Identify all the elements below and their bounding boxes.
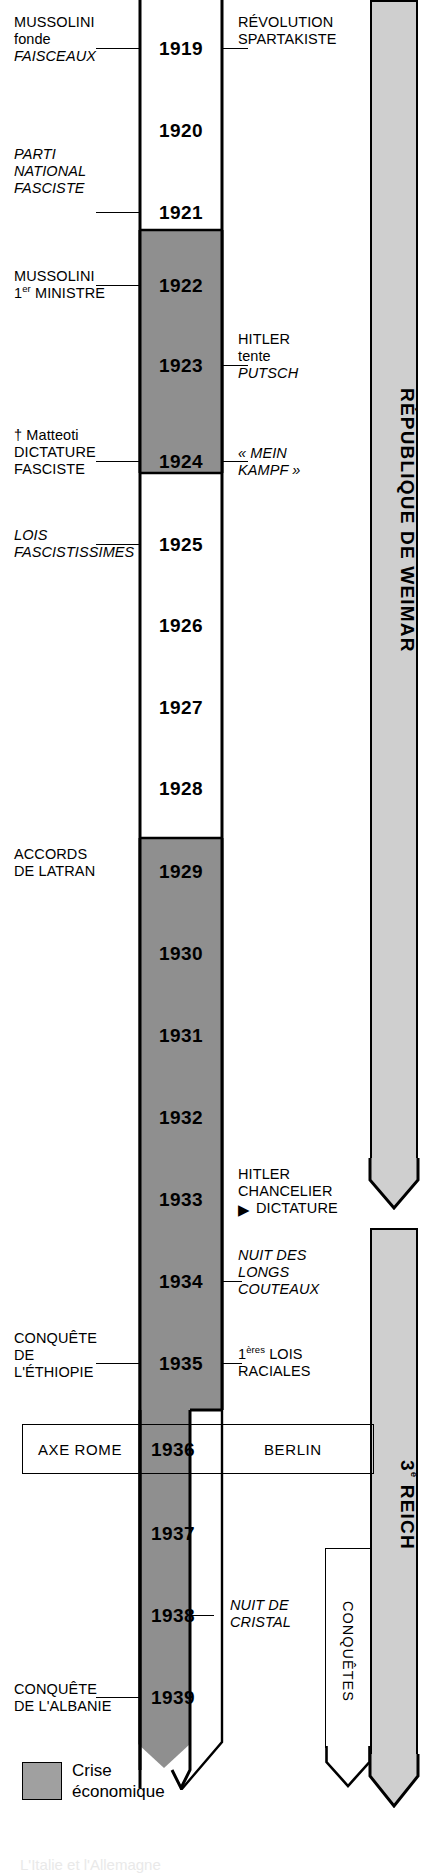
event-left-1921-line3: FASCISTE bbox=[14, 180, 132, 197]
year-1922: 1922 bbox=[138, 276, 224, 295]
event-left-1919-line3: FAISCEAUX bbox=[14, 48, 132, 65]
event-right-1923-line1: HITLER bbox=[238, 331, 368, 348]
reich-ordinal-num: 3 bbox=[397, 1460, 418, 1472]
event-right-1919-line1: RÉVOLUTION bbox=[238, 14, 368, 31]
tick-right-1938 bbox=[190, 1615, 214, 1616]
axe-rome-label: AXE ROME bbox=[38, 1441, 122, 1458]
timeline-outline bbox=[138, 0, 224, 1790]
year-1937: 1937 bbox=[130, 1524, 216, 1543]
event-left-1919: MUSSOLINI fonde FAISCEAUX bbox=[14, 14, 132, 65]
legend-line2: économique bbox=[72, 1781, 222, 1802]
ordinal-num-2: 1 bbox=[238, 1346, 246, 1362]
reich-word: REICH bbox=[397, 1478, 418, 1550]
event-right-1923: HITLER tente PUTSCH bbox=[238, 331, 368, 382]
ordinal-sup-2: ères bbox=[246, 1344, 265, 1355]
era-bar-weimar-arrow-tip bbox=[368, 1158, 420, 1210]
year-1931: 1931 bbox=[138, 1026, 224, 1045]
event-right-1919-line2: SPARTAKISTE bbox=[238, 31, 368, 48]
era-label-reich: 3e REICH bbox=[370, 1410, 418, 1600]
event-right-1919: RÉVOLUTION SPARTAKISTE bbox=[238, 14, 368, 48]
event-right-1935: 1ères LOIS RACIALES bbox=[238, 1346, 368, 1380]
event-right-1934-line1: NUIT DES bbox=[238, 1247, 368, 1264]
event-right-1933-line3-wrap: ▶ DICTATURE bbox=[238, 1200, 368, 1217]
event-left-1935-line3: L'ÉTHIOPIE bbox=[14, 1364, 132, 1381]
event-right-1935-line2: RACIALES bbox=[238, 1363, 368, 1380]
year-1939: 1939 bbox=[130, 1688, 216, 1707]
triangle-right-icon: ▶ bbox=[238, 1202, 250, 1217]
event-right-1934-line3: COUTEAUX bbox=[238, 1281, 368, 1298]
event-left-1919-line2: fonde bbox=[14, 31, 132, 48]
year-1929: 1929 bbox=[138, 862, 224, 881]
event-left-1925-line1: LOIS bbox=[14, 527, 132, 544]
year-1924: 1924 bbox=[138, 452, 224, 471]
event-right-1933: HITLER CHANCELIER ▶ DICTATURE bbox=[238, 1166, 368, 1217]
timeline-column bbox=[138, 0, 224, 1790]
year-1921: 1921 bbox=[138, 203, 224, 222]
year-1930: 1930 bbox=[138, 944, 224, 963]
figure-caption: L'Italie et l'Allemagne bbox=[20, 1856, 410, 1873]
conquetes-arrow-tip bbox=[325, 1746, 371, 1788]
year-1932: 1932 bbox=[138, 1108, 224, 1127]
year-1925: 1925 bbox=[138, 535, 224, 554]
year-1927: 1927 bbox=[138, 698, 224, 717]
event-left-1939-line1: CONQUÊTE bbox=[14, 1681, 142, 1698]
event-right-1938-line1: NUIT DE bbox=[230, 1597, 320, 1614]
era-label-weimar: RÉPUBLIQUE DE WEIMAR bbox=[370, 160, 418, 880]
event-left-1921-line1: PARTI bbox=[14, 146, 132, 163]
event-left-1935-line1: CONQUÊTE bbox=[14, 1330, 132, 1347]
year-1926: 1926 bbox=[138, 616, 224, 635]
event-right-1923-line2: tente bbox=[238, 348, 368, 365]
ministre-word: MINISTRE bbox=[31, 285, 105, 301]
era-bar-reich-arrow-tip bbox=[368, 1754, 420, 1808]
event-left-1935-line2: DE bbox=[14, 1347, 132, 1364]
event-left-1939: CONQUÊTE DE L'ALBANIE bbox=[14, 1681, 142, 1715]
event-left-1921-line2: NATIONAL bbox=[14, 163, 132, 180]
year-1933: 1933 bbox=[138, 1190, 224, 1209]
legend-text-crisis: Crise économique bbox=[72, 1760, 222, 1802]
event-left-1925: LOIS FASCISTISSIMES bbox=[14, 527, 132, 561]
conquetes-label: CONQUÊTES bbox=[325, 1556, 371, 1746]
event-left-1924: † Matteoti DICTATURE FASCISTE bbox=[14, 427, 132, 478]
year-1923: 1923 bbox=[138, 356, 224, 375]
legend-line1: Crise bbox=[72, 1760, 222, 1781]
event-left-1921: PARTI NATIONAL FASCISTE bbox=[14, 146, 132, 197]
event-left-1925-line2: FASCISTISSIMES bbox=[14, 544, 132, 561]
event-left-1929-line1: ACCORDS bbox=[14, 846, 132, 863]
year-1920: 1920 bbox=[138, 121, 224, 140]
ordinal-num: 1 bbox=[14, 285, 22, 301]
tick-left-1921 bbox=[96, 212, 140, 213]
event-left-1924-line3: FASCISTE bbox=[14, 461, 132, 478]
event-right-1933-line3: DICTATURE bbox=[256, 1200, 338, 1216]
year-1928: 1928 bbox=[138, 779, 224, 798]
event-left-1924-line2: DICTATURE bbox=[14, 444, 132, 461]
event-right-1924: « MEIN KAMPF » bbox=[238, 445, 368, 479]
event-right-1924-line2: KAMPF » bbox=[238, 462, 368, 479]
event-right-1924-line1: « MEIN bbox=[238, 445, 368, 462]
event-left-1922: MUSSOLINI 1er MINISTRE bbox=[14, 268, 132, 302]
event-left-1939-line2: DE L'ALBANIE bbox=[14, 1698, 142, 1715]
tick-right-1919 bbox=[222, 48, 248, 49]
event-right-1933-line1: HITLER bbox=[238, 1166, 368, 1183]
event-right-1933-line2: CHANCELIER bbox=[238, 1183, 368, 1200]
year-1919: 1919 bbox=[138, 39, 224, 58]
event-left-1922-line1: MUSSOLINI bbox=[14, 268, 132, 285]
berlin-label: BERLIN bbox=[264, 1441, 322, 1458]
year-1934: 1934 bbox=[138, 1272, 224, 1291]
ordinal-sup: er bbox=[22, 283, 31, 294]
event-left-1922-line2: 1er MINISTRE bbox=[14, 285, 132, 302]
event-right-1938-line2: CRISTAL bbox=[230, 1614, 320, 1631]
event-left-1919-line1: MUSSOLINI bbox=[14, 14, 132, 31]
legend-swatch-crisis bbox=[22, 1762, 62, 1800]
event-left-1924-line1: † Matteoti bbox=[14, 427, 132, 444]
event-right-1938: NUIT DE CRISTAL bbox=[230, 1597, 320, 1631]
event-left-1935: CONQUÊTE DE L'ÉTHIOPIE bbox=[14, 1330, 132, 1381]
event-right-1923-line3: PUTSCH bbox=[238, 365, 368, 382]
event-right-1935-line1: 1ères LOIS bbox=[238, 1346, 368, 1363]
event-left-1929: ACCORDS DE LATRAN bbox=[14, 846, 132, 880]
event-right-1934: NUIT DES LONGS COUTEAUX bbox=[238, 1247, 368, 1298]
event-right-1934-line2: LONGS bbox=[238, 1264, 368, 1281]
lois-word: LOIS bbox=[265, 1346, 303, 1362]
year-1935: 1935 bbox=[138, 1354, 224, 1373]
event-left-1929-line2: DE LATRAN bbox=[14, 863, 132, 880]
